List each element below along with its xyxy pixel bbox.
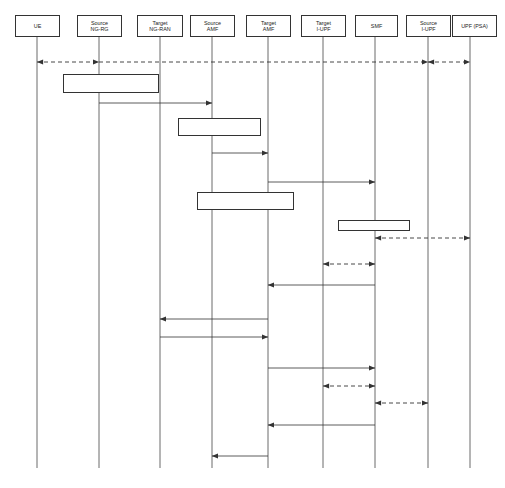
participant-label-line2: I-UPF (421, 26, 435, 32)
sequence-diagram: UESourceNG-RGTargetNG-RANSourceAMFTarget… (0, 0, 505, 488)
participant-label: SourceAMF (204, 20, 221, 33)
participant-ue: UE (15, 15, 60, 37)
participant-label: TargetI-UPF (316, 20, 331, 33)
participant-label-line2: AMF (207, 26, 218, 32)
participant-label-line2: AMF (263, 26, 274, 32)
participant-upf_psa: UPF (PSA) (452, 15, 497, 37)
participant-smf: SMF (355, 15, 398, 37)
participant-label: UPF (PSA) (461, 23, 488, 29)
participant-label: TargetAMF (261, 20, 276, 33)
participant-label: SourceI-UPF (420, 20, 437, 33)
participant-label: UE (34, 23, 42, 29)
selection-note (178, 118, 261, 136)
participant-tgt_ngran: TargetNG-RAN (137, 15, 183, 37)
participant-label-line2: I-UPF (316, 26, 330, 32)
participant-src_ngrg: SourceNG-RG (77, 15, 122, 37)
participant-tgt_iupf: TargetI-UPF (301, 15, 346, 37)
participant-label: TargetNG-RAN (149, 20, 170, 33)
participant-src_amf: SourceAMF (190, 15, 235, 37)
participant-tgt_amf: TargetAMF (246, 15, 291, 37)
participant-label-line2: NG-RAN (149, 26, 170, 32)
participant-label: SourceNG-RG (91, 20, 109, 33)
decision-note (63, 74, 159, 93)
participant-src_iupf: SourceI-UPF (406, 15, 451, 37)
iupf-note (338, 220, 410, 231)
supervision-note (197, 192, 294, 210)
participant-label: SMF (371, 23, 382, 29)
participant-label-line2: NG-RG (91, 26, 109, 32)
